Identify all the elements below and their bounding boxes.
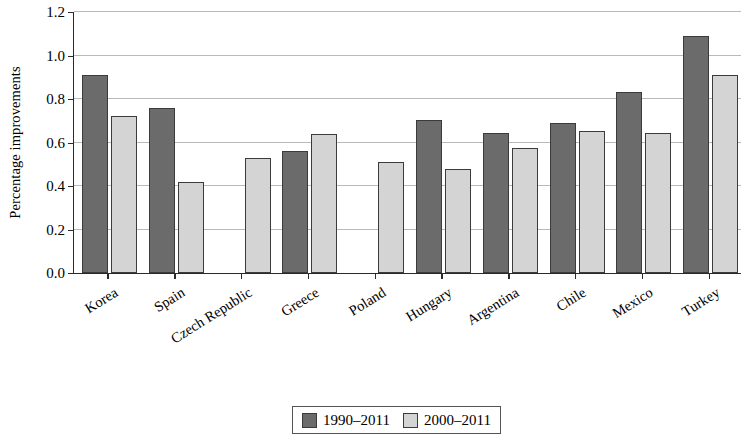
chart-legend: 1990–20112000–2011 <box>292 406 501 434</box>
bar <box>512 148 538 273</box>
bar <box>149 108 175 273</box>
bar-group <box>74 13 141 273</box>
y-tick-label: 1.2 <box>46 4 65 21</box>
bar <box>645 133 671 273</box>
y-tick-label: 1.0 <box>46 47 65 64</box>
legend-label: 2000–2011 <box>424 412 491 429</box>
x-axis-labels: KoreaSpainCzech RepublicGreecePolandHung… <box>73 274 741 384</box>
chart-figure: Percentage improvements 0.00.20.40.60.81… <box>0 0 754 447</box>
y-axis-title: Percentage improvements <box>0 0 30 285</box>
y-tick-label: 0.4 <box>46 178 65 195</box>
bar <box>483 133 509 273</box>
gridline <box>74 11 741 12</box>
bar <box>111 116 137 273</box>
legend-swatch <box>403 413 418 428</box>
y-tick-label: 0.6 <box>46 134 65 151</box>
bar <box>416 120 442 273</box>
y-tick-label: 0.0 <box>46 265 65 282</box>
y-tick-label: 0.8 <box>46 91 65 108</box>
bar-group <box>542 13 609 273</box>
bar <box>378 162 404 273</box>
bar <box>712 75 738 273</box>
y-tick-label: 0.2 <box>46 221 65 238</box>
plot-area: 0.00.20.40.60.81.01.2 <box>73 13 741 274</box>
legend-item: 2000–2011 <box>403 412 491 429</box>
bar <box>245 158 271 273</box>
bar-group <box>141 13 208 273</box>
bar-group <box>341 13 408 273</box>
legend-label: 1990–2011 <box>323 412 390 429</box>
bar <box>579 131 605 273</box>
bar-group <box>274 13 341 273</box>
bar-group <box>408 13 475 273</box>
bar-group <box>475 13 542 273</box>
bar-group <box>675 13 742 273</box>
y-axis-title-text: Percentage improvements <box>7 66 24 218</box>
bar <box>683 36 709 273</box>
bar <box>550 123 576 273</box>
legend-swatch <box>302 413 317 428</box>
bar <box>616 92 642 273</box>
bar-group <box>608 13 675 273</box>
bar <box>445 169 471 273</box>
bar <box>178 182 204 273</box>
bar-series-container <box>74 13 741 273</box>
bar-group <box>208 13 275 273</box>
bar <box>82 75 108 273</box>
legend-item: 1990–2011 <box>302 412 390 429</box>
